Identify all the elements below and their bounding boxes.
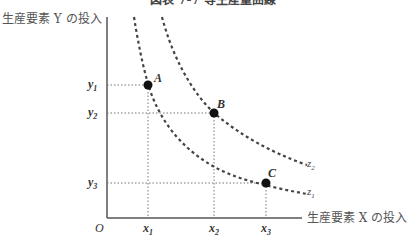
y-axis-label: 生産要素 Y の投入 [2,13,102,25]
x3-tick-label: x3 [261,222,271,236]
x2-sub: 2 [215,228,219,236]
y1-sub: 1 [93,84,97,93]
y2-tick-label: y2 [88,106,97,121]
y3-sub: 3 [93,182,97,191]
x1-tick-label: x1 [143,222,153,236]
y2-sub: 2 [93,112,97,121]
isoquant-diagram [0,0,407,236]
x1-sub: 1 [149,228,153,236]
point-a-marker [144,81,153,90]
origin-label: O [95,222,104,234]
point-b-label: B [217,98,225,110]
curve-z1-label: z1 [307,186,315,200]
guide-lines [107,85,266,218]
figure-title: 図表 7-7 等生産量曲線 [150,0,276,6]
y3-tick-label: y3 [88,176,97,191]
z2-sub: 2 [311,164,315,172]
point-a-label: A [154,72,162,84]
point-c-label: C [268,167,276,179]
curve-z2-label: z2 [307,158,315,172]
x3-sub: 3 [267,228,271,236]
y1-tick-label: y1 [88,78,97,93]
x-axis-label: 生産要素 X の投入 [307,212,407,224]
x2-tick-label: x2 [209,222,219,236]
z1-sub: 1 [311,192,315,200]
